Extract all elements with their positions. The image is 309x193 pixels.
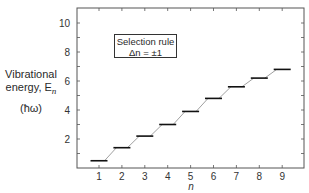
x-tick-label: 6 [211,171,217,182]
selection-rule-annotation: Selection rule Δn = ±1 [114,34,177,58]
y-tick-label: 4 [64,105,70,116]
x-tick-label: 1 [96,171,102,182]
x-tick-label: 8 [257,171,263,182]
x-tick-label: 2 [119,171,125,182]
y-label-units: (ħω) [0,102,62,115]
y-tick-label: 2 [64,134,70,145]
y-tick-label: 10 [59,18,71,29]
y-tick-label: 6 [64,76,70,87]
energy-levels [91,69,291,160]
x-axis-label: n [188,181,194,192]
plot-frame [77,8,304,168]
x-tick-label: 3 [142,171,148,182]
y-label-line1: Vibrational [0,68,62,81]
x-tick-label: 9 [279,171,285,182]
y-axis-label: Vibrational energy, En (ħω) [0,68,62,115]
y-axis-ticks: 246810 [59,18,304,154]
y-tick-label: 8 [64,47,70,58]
x-tick-label: 7 [234,171,240,182]
selection-rule-title: Selection rule [115,36,176,47]
x-tick-label: 4 [165,171,171,182]
y-label-line2: energy, En [0,81,62,98]
selection-rule-formula: Δn = ±1 [115,47,176,58]
